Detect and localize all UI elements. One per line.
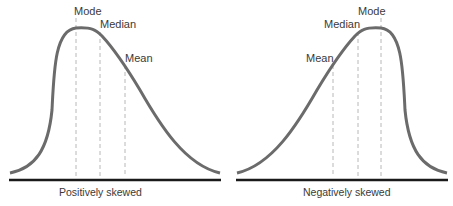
mode-label: Mode	[74, 5, 102, 17]
skewness-diagram: Mode Median Mean Positively skewed Mode …	[0, 0, 453, 206]
negative-caption: Negatively skewed	[303, 186, 391, 198]
positively-skewed-panel: Mode Median Mean Positively skewed	[9, 5, 221, 198]
median-label: Median	[100, 18, 136, 30]
positive-skew-curve	[10, 28, 220, 173]
negative-skew-curve	[237, 28, 447, 173]
mean-label: Mean	[306, 52, 334, 64]
positive-caption: Positively skewed	[59, 186, 142, 198]
mean-label: Mean	[125, 52, 153, 64]
negatively-skewed-panel: Mode Median Mean Negatively skewed	[236, 5, 448, 198]
median-label: Median	[324, 18, 360, 30]
mode-label: Mode	[358, 5, 386, 17]
